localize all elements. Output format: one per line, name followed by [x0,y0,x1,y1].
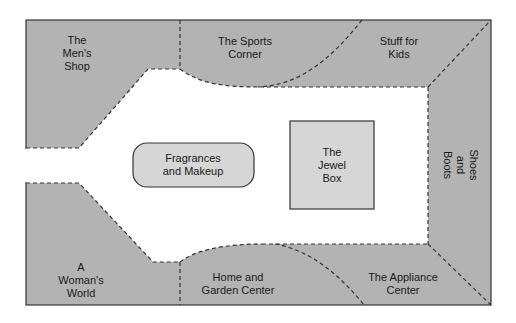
label-line: Center [368,284,438,297]
label-stuff-for-kids: Stuff for Kids [380,35,418,61]
label-line: The [318,146,346,159]
label-shoes-and-boots: Shoes and Boots [441,149,480,180]
label-line: and [454,149,467,180]
label-line: Home and [202,271,275,284]
label-appliance-center: The Appliance Center [368,271,438,297]
label-line: The [63,34,92,47]
label-line: and Makeup [163,165,224,178]
label-line: Box [318,172,346,185]
label-line: Woman's [58,274,103,287]
label-line: A [58,261,103,274]
label-home-and-garden: Home and Garden Center [202,271,275,297]
label-line: Corner [218,48,272,61]
label-line: Jewel [318,159,346,172]
label-line: Kids [380,48,418,61]
label-line: Stuff for [380,35,418,48]
label-line: Boots [441,149,454,180]
label-sports-corner: The Sports Corner [218,35,272,61]
label-line: The Sports [218,35,272,48]
label-jewel-box: The Jewel Box [318,146,346,185]
label-line: Garden Center [202,284,275,297]
label-line: Shop [63,60,92,73]
label-line: Fragrances [163,152,224,165]
label-line: Shoes [467,149,480,180]
label-fragrances-makeup: Fragrances and Makeup [163,152,224,178]
label-line: World [58,287,103,300]
label-line: The Appliance [368,271,438,284]
label-womans-world: A Woman's World [58,261,103,300]
label-mens-shop: The Men's Shop [63,34,92,73]
label-line: Men's [63,47,92,60]
